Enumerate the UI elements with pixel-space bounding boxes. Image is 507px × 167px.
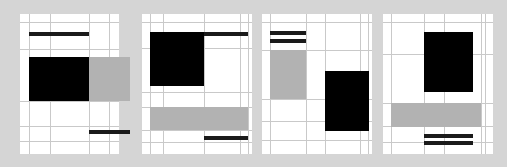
grid-rule-horizontal bbox=[20, 101, 119, 102]
grid-rule-horizontal bbox=[383, 22, 493, 23]
grid-rule-vertical bbox=[485, 14, 486, 154]
rule-bar-black[interactable] bbox=[424, 134, 473, 138]
grid-rule-vertical bbox=[481, 14, 482, 154]
block-gray[interactable] bbox=[204, 107, 248, 130]
block-gray[interactable] bbox=[270, 50, 306, 99]
grid-rule-vertical bbox=[306, 14, 307, 154]
block-black[interactable] bbox=[325, 71, 369, 131]
grid-rule-horizontal bbox=[142, 130, 252, 131]
grid-rule-horizontal bbox=[20, 141, 119, 142]
panel-1[interactable] bbox=[20, 14, 119, 154]
grid-rule-horizontal bbox=[142, 142, 252, 143]
grid-rule-horizontal bbox=[142, 92, 252, 93]
grid-rule-vertical bbox=[391, 14, 392, 154]
panel-2[interactable] bbox=[142, 14, 252, 154]
block-gray[interactable] bbox=[89, 57, 130, 101]
grid-rule-horizontal bbox=[142, 22, 252, 23]
rule-bar-black[interactable] bbox=[204, 136, 248, 140]
rule-bar-black[interactable] bbox=[270, 31, 306, 35]
block-gray[interactable] bbox=[150, 107, 204, 130]
grid-rule-horizontal bbox=[262, 22, 372, 23]
grid-rule-horizontal bbox=[20, 22, 119, 23]
panel-3[interactable] bbox=[262, 14, 372, 154]
block-black[interactable] bbox=[150, 32, 204, 86]
grid-rule-horizontal bbox=[20, 126, 119, 127]
block-gray[interactable] bbox=[391, 103, 444, 127]
rule-bar-black[interactable] bbox=[270, 39, 306, 43]
rule-bar-black[interactable] bbox=[204, 32, 248, 36]
grid-rule-vertical bbox=[248, 14, 249, 154]
block-black[interactable] bbox=[424, 32, 473, 92]
panel-4[interactable] bbox=[383, 14, 493, 154]
rule-bar-black[interactable] bbox=[29, 32, 89, 36]
grid-rule-horizontal bbox=[20, 49, 119, 50]
rule-bar-black[interactable] bbox=[89, 130, 130, 134]
rule-bar-black[interactable] bbox=[424, 141, 473, 145]
grid-rule-horizontal bbox=[262, 140, 372, 141]
block-black[interactable] bbox=[29, 57, 89, 101]
block-gray[interactable] bbox=[444, 103, 481, 127]
composition-canvas bbox=[0, 0, 507, 167]
